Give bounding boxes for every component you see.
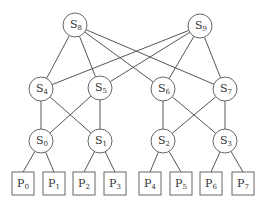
switch-s1: S1 (88, 129, 112, 153)
link-S3-P6 (211, 152, 220, 172)
processor-p5: P5 (170, 172, 192, 195)
switch-s7: S7 (213, 77, 237, 101)
switch-s5: S5 (88, 76, 112, 100)
switch-s6: S6 (151, 77, 175, 101)
processor-p0: P0 (12, 172, 34, 195)
link-S1-P2 (84, 152, 94, 172)
switch-nodes: S8S9S4S5S6S7S0S1S2S3 (29, 13, 237, 153)
processor-p4: P4 (139, 172, 161, 195)
link-S9-S4 (52, 30, 189, 84)
switch-s0: S0 (29, 129, 53, 153)
link-S2-P4 (150, 152, 158, 172)
processor-p6: P6 (200, 172, 222, 195)
processor-p3: P3 (104, 172, 126, 195)
edges (23, 30, 243, 172)
link-S2-P5 (169, 151, 181, 172)
link-S0-P1 (46, 152, 54, 172)
link-S8-S4 (47, 36, 70, 79)
processor-p7: P7 (232, 172, 254, 195)
processor-p1: P1 (43, 172, 65, 195)
link-S3-P7 (231, 151, 243, 172)
switch-s2: S2 (151, 129, 175, 153)
switch-s4: S4 (29, 77, 53, 101)
switch-s8: S8 (63, 13, 87, 37)
switch-s3: S3 (213, 129, 237, 153)
link-S0-P0 (23, 151, 35, 172)
switch-s9: S9 (188, 14, 212, 38)
network-diagram: S8S9S4S5S6S7S0S1S2S3 P0P1P2P3P4P5P6P7 (0, 0, 267, 206)
processor-p2: P2 (73, 172, 95, 195)
link-S9-S7 (204, 37, 220, 78)
processor-nodes: P0P1P2P3P4P5P6P7 (12, 172, 254, 195)
link-S1-P3 (105, 152, 115, 172)
